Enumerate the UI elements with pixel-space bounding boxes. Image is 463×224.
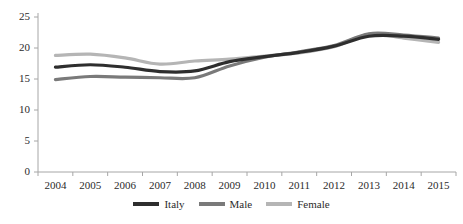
legend-line-swatch-icon (133, 202, 159, 206)
legend-item-italy[interactable]: Italy (133, 198, 184, 210)
y-tick-label: 5 (8, 135, 30, 146)
chart-legend: ItalyMaleFemale (0, 198, 463, 210)
legend-label: Italy (164, 198, 184, 210)
y-tick-label: 25 (8, 11, 30, 22)
series-line-italy (55, 35, 438, 72)
legend-line-swatch-icon (199, 202, 225, 206)
legend-item-male[interactable]: Male (199, 198, 253, 210)
y-tick-label: 15 (8, 73, 30, 84)
legend-label: Female (297, 198, 329, 210)
data-series (55, 33, 438, 80)
x-tick-label: 2015 (419, 180, 459, 191)
line-chart: 0510152025 20042005200620072008200920102… (0, 0, 463, 224)
y-tick-label: 10 (8, 104, 30, 115)
legend-label: Male (230, 198, 253, 210)
legend-item-female[interactable]: Female (266, 198, 329, 210)
y-tick-label: 0 (8, 166, 30, 177)
legend-line-swatch-icon (266, 202, 292, 206)
y-tick-label: 20 (8, 42, 30, 53)
